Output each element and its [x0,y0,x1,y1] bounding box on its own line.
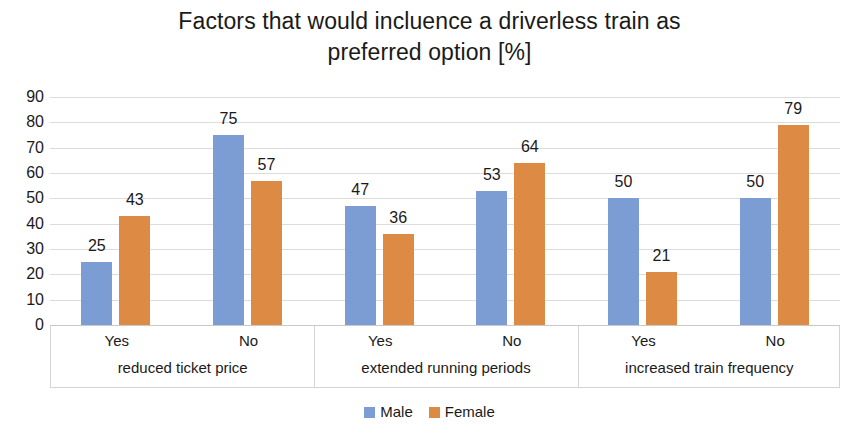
bar-value-label: 50 [598,174,649,190]
y-axis-tick-label: 80 [4,114,44,130]
category-axis: YesNoreduced ticket priceYesNoextended r… [50,326,840,388]
category-tick-label: Yes [77,332,157,350]
bar-female-extended-running-periods-no[interactable] [514,163,545,325]
bar-value-label: 43 [109,192,160,208]
bar-female-increased-train-frequency-no[interactable] [778,125,809,325]
gridline [50,97,840,98]
bar-value-label: 64 [504,139,555,155]
legend-swatch-icon [429,407,440,418]
bar-value-label: 53 [466,167,517,183]
category-group-label: increased train frequency [578,359,841,377]
category-group-separator [578,326,579,387]
bar-value-label: 36 [373,210,424,226]
category-group-label: reduced ticket price [51,359,314,377]
category-tick-label: Yes [340,332,420,350]
category-tick-label: No [209,332,289,350]
bar-male-increased-train-frequency-yes[interactable] [608,198,639,325]
bar-male-increased-train-frequency-no[interactable] [740,198,771,325]
bar-male-reduced-ticket-price-yes[interactable] [81,262,112,325]
bar-male-reduced-ticket-price-no[interactable] [213,135,244,325]
bar-value-label: 21 [636,248,687,264]
y-axis: 9080706050403020100 [0,97,44,325]
category-tick-label: Yes [604,332,684,350]
gridline [50,224,840,225]
legend-swatch-icon [364,407,375,418]
category-group-separator [314,326,315,387]
legend-item-female[interactable]: Female [429,404,495,420]
bar-value-label: 47 [335,182,386,198]
y-axis-tick-label: 70 [4,140,44,156]
chart-title: Factors that would incluence a driverles… [0,6,859,68]
bar-value-label: 25 [71,238,122,254]
category-tick-label: No [472,332,552,350]
bar-value-label: 75 [203,111,254,127]
y-axis-tick-label: 60 [4,165,44,181]
bar-value-label: 50 [730,174,781,190]
bar-female-reduced-ticket-price-no[interactable] [251,181,282,325]
chart-title-line-1: Factors that would incluence a driverles… [0,6,859,37]
category-group-label: extended running periods [314,359,577,377]
y-axis-tick-label: 50 [4,190,44,206]
gridline [50,148,840,149]
bar-female-extended-running-periods-yes[interactable] [383,234,414,325]
gridline [50,198,840,199]
plot-area: 254375574736536450215079 [50,97,840,325]
y-axis-tick-label: 40 [4,216,44,232]
y-axis-tick-label: 30 [4,241,44,257]
gridline [50,249,840,250]
gridline [50,173,840,174]
y-axis-tick-label: 10 [4,292,44,308]
y-axis-tick-label: 20 [4,266,44,282]
legend-label: Female [445,404,495,420]
chart-title-line-2: preferred option [%] [0,37,859,68]
y-axis-tick-label: 90 [4,89,44,105]
y-axis-tick-label: 0 [4,317,44,333]
bar-male-extended-running-periods-no[interactable] [476,191,507,325]
bar-chart: Factors that would incluence a driverles… [0,0,859,435]
legend-item-male[interactable]: Male [364,404,413,420]
legend-label: Male [380,404,413,420]
bar-female-increased-train-frequency-yes[interactable] [646,272,677,325]
bar-male-extended-running-periods-yes[interactable] [345,206,376,325]
category-tick-label: No [735,332,815,350]
bar-value-label: 57 [241,157,292,173]
chart-legend: MaleFemale [0,404,859,420]
bar-value-label: 79 [768,101,819,117]
gridline [50,300,840,301]
gridline [50,122,840,123]
bar-female-reduced-ticket-price-yes[interactable] [119,216,150,325]
gridline [50,274,840,275]
